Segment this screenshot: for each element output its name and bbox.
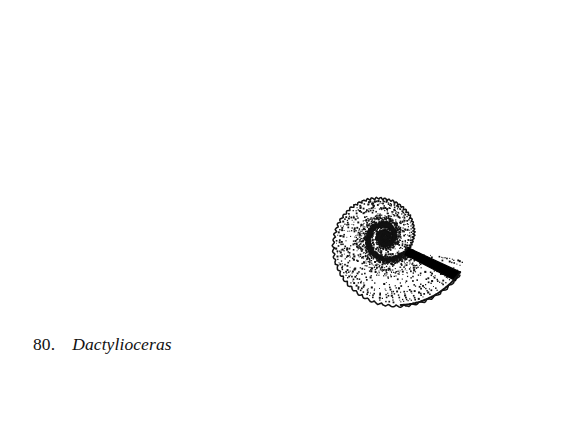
figure-page: 80.Dactylioceras <box>0 0 580 440</box>
page-background <box>0 0 580 440</box>
taxon-name: Dactylioceras <box>72 334 171 354</box>
figure-number: 80. <box>33 334 55 354</box>
ammonite-illustration <box>0 0 580 440</box>
protoconch-core <box>384 236 388 240</box>
figure-caption: 80.Dactylioceras <box>33 334 172 354</box>
